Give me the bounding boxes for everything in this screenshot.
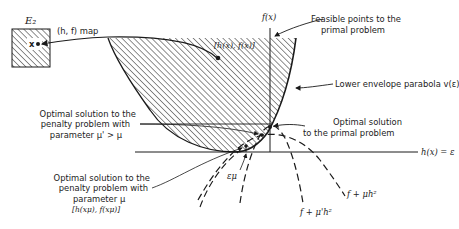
f-axis-label: f(x) [262,12,276,23]
mu-prime-line2: penalty problem with [41,119,130,130]
mu-line2: penalty problem with [59,183,148,194]
mu-line4: [h(xμ), f(xμ)] [72,205,120,216]
feasible-annotation-line1: Feasible points to the [311,14,401,25]
primal-optimum-point [268,125,272,129]
x-point-label: x [29,39,34,50]
image-point [216,56,221,61]
leader-envelope [296,84,333,88]
domain-label: E₂ [25,16,36,27]
curve-mu-prime-label: f + μ'h² [300,207,332,218]
penalty-mu-point [244,144,248,148]
primal-optimum-line1: Optimal solution [333,117,402,128]
h-axis-label: h(x) = ε [421,147,455,158]
mu-prime-line1: Optimal solution to the [40,109,136,120]
leader-mu [152,148,242,188]
image-point-label: [h(x), f(x)] [214,41,255,52]
mu-line1: Optimal solution to the [54,173,150,184]
primal-optimum-line2: to the primal problem [303,128,395,139]
penalty-diagram: E₂ x (h, f) map [h(x), f(x)] f(x) h(x) =… [0,0,459,229]
map-label: (h, f) map [57,26,98,37]
curve-mu-label: f + μh² [347,189,377,200]
lower-envelope-annotation: Lower envelope parabola v(ε) [335,79,459,90]
penalty-mu-prime-point [260,133,264,137]
epsilon-mu-label: εμ [227,171,237,182]
mu-line3: parameter μ [73,194,125,205]
leader-eps-mu [240,154,246,170]
mu-prime-line3: parameter μ' > μ [50,130,122,141]
leader-primal-optimum [274,125,305,127]
feasible-annotation-line2: primal problem [321,25,385,36]
